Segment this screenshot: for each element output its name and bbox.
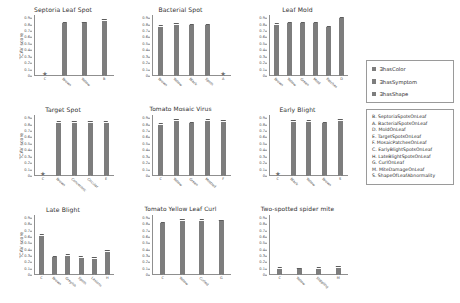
x-tick-mark bbox=[293, 175, 294, 177]
y-tick-label: 0.8 bbox=[142, 23, 148, 27]
y-tick-labels: 00.10.20.30.40.50.60.70.80.9 bbox=[251, 215, 267, 275]
y-tick-mark bbox=[30, 76, 32, 77]
x-tick-label: C bbox=[277, 177, 279, 181]
y-tick-mark bbox=[148, 44, 150, 45]
x-tick-mark bbox=[161, 75, 162, 77]
bar bbox=[306, 122, 311, 176]
x-tick-slot: C bbox=[35, 76, 55, 102]
bar-slot bbox=[173, 215, 193, 275]
y-tick-label: 0.9 bbox=[24, 216, 30, 220]
y-tick-mark bbox=[265, 218, 267, 219]
y-tick-label: 0.7 bbox=[24, 129, 30, 133]
y-tick-mark bbox=[148, 249, 150, 250]
x-tick-label: Stippling bbox=[315, 276, 329, 289]
error-bar bbox=[174, 23, 178, 25]
bar bbox=[160, 223, 165, 275]
y-tick-label: 0.3 bbox=[259, 55, 265, 59]
x-tick-label: C bbox=[42, 177, 44, 181]
concept-abbreviation-key: B. SeptoriaSpotsOnLeafA. BacterialSpotsO… bbox=[366, 109, 454, 185]
x-tick-label: B bbox=[103, 77, 105, 81]
bar-slot: ★ bbox=[35, 15, 55, 76]
y-tick-mark bbox=[30, 275, 32, 276]
x-tick-mark bbox=[90, 175, 91, 177]
x-tick-label: F bbox=[222, 177, 224, 181]
y-tick-label: 0.8 bbox=[24, 123, 30, 127]
x-tick-slot: Lesions bbox=[88, 275, 101, 301]
y-tick-mark bbox=[265, 156, 267, 157]
x-tick-slot: Spots bbox=[200, 76, 216, 102]
y-tick-mark bbox=[265, 56, 267, 57]
error-bar bbox=[104, 121, 108, 123]
bar-series: ★ bbox=[153, 15, 231, 76]
bar bbox=[102, 21, 107, 76]
y-tick-label: 0.1 bbox=[142, 68, 148, 72]
y-tick-mark bbox=[148, 76, 150, 77]
y-tick-mark bbox=[30, 137, 32, 138]
y-tick-mark bbox=[265, 256, 267, 257]
x-tick-slot: D bbox=[335, 76, 348, 102]
y-tick-mark bbox=[30, 218, 32, 219]
error-bar bbox=[79, 256, 83, 258]
key-item: H. LateBlightSpotsOnLeaf bbox=[372, 154, 450, 161]
bar bbox=[65, 256, 70, 275]
y-tick-mark bbox=[30, 50, 32, 51]
key-item: S. ShapeOfLeafAbnormality bbox=[372, 173, 450, 180]
x-tick-slot: F bbox=[215, 176, 231, 202]
y-tick-mark bbox=[30, 224, 32, 225]
x-tick-mark bbox=[74, 175, 75, 177]
x-tick-slot: Brown bbox=[48, 275, 61, 301]
x-tick-slot: Yellow bbox=[290, 275, 310, 301]
x-tick-slot: G bbox=[212, 275, 232, 301]
error-bar bbox=[190, 122, 194, 124]
y-tick-mark bbox=[30, 237, 32, 238]
tcav-figure: Septoria Leaf Spot00.10.20.30.40.50.60.7… bbox=[0, 0, 460, 303]
bar-series: ★ bbox=[270, 115, 348, 176]
bar-slot bbox=[283, 15, 296, 76]
error-bar bbox=[322, 122, 326, 124]
x-tick-slot: Yellow bbox=[173, 275, 193, 301]
x-tick-mark bbox=[192, 75, 193, 77]
subplot-6: Early Blight00.10.20.30.40.50.60.70.80.9… bbox=[239, 102, 356, 202]
legend-item[interactable]: ∃hasSymptom bbox=[372, 79, 449, 85]
y-axis-label: TCAV score bbox=[19, 32, 24, 59]
y-tick-mark bbox=[30, 44, 32, 45]
x-tick-slot: C bbox=[270, 275, 290, 301]
x-tick-slot: Curled bbox=[192, 275, 212, 301]
subplot-title: Leaf Mold bbox=[239, 6, 356, 13]
x-tick-label: Green bbox=[299, 77, 310, 87]
y-tick-mark bbox=[30, 124, 32, 125]
y-tick-mark bbox=[148, 131, 150, 132]
y-tick-mark bbox=[30, 268, 32, 269]
y-tick-labels: 00.10.20.30.40.50.60.70.80.9 bbox=[134, 115, 150, 176]
y-tick-mark bbox=[148, 50, 150, 51]
y-tick-label: 0.3 bbox=[24, 55, 30, 59]
y-tick-mark bbox=[30, 156, 32, 157]
legend-item[interactable]: ∃hasColor bbox=[372, 66, 449, 72]
y-tick-mark bbox=[148, 69, 150, 70]
x-tick-slot: Yellow bbox=[169, 76, 185, 102]
bar-slot bbox=[286, 115, 302, 176]
error-bar bbox=[88, 121, 92, 123]
y-tick-mark bbox=[265, 118, 267, 119]
y-tick-label: 0.3 bbox=[259, 254, 265, 258]
y-tick-label: 0.6 bbox=[24, 35, 30, 39]
y-tick-mark bbox=[265, 163, 267, 164]
error-bar bbox=[161, 222, 165, 224]
x-tick-slot: Black bbox=[184, 76, 200, 102]
y-tick-mark bbox=[265, 176, 267, 177]
x-tick-label: Brown bbox=[321, 177, 332, 187]
bar bbox=[313, 23, 318, 76]
bar-slot bbox=[317, 115, 333, 176]
x-tick-label: Yellow bbox=[173, 77, 184, 87]
bar-slot bbox=[169, 115, 185, 176]
x-tick-label: Yellow bbox=[173, 177, 184, 187]
subplot-8: Tomato Yellow Leaf Curl00.10.20.30.40.50… bbox=[122, 202, 239, 301]
legend-item[interactable]: ∃hasShape bbox=[372, 91, 449, 97]
error-bar bbox=[190, 24, 194, 26]
subplot-title: Tomato Yellow Leaf Curl bbox=[122, 206, 239, 213]
bar-series bbox=[270, 215, 348, 275]
x-tick-slot: C bbox=[153, 275, 173, 301]
error-bar bbox=[66, 254, 70, 256]
bar bbox=[62, 23, 67, 76]
key-item: C. EarlyBlightSpotsOnLeaf bbox=[372, 147, 450, 154]
